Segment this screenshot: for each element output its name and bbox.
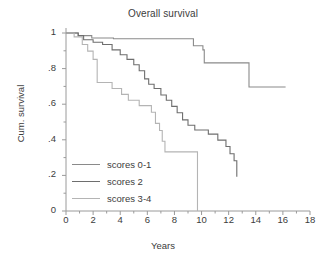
legend-item-1[interactable]: scores 0-1 <box>72 156 151 173</box>
x-tick-label: 10 <box>192 214 212 225</box>
y-tick-label: 0 <box>34 204 56 215</box>
y-tick-label: .8 <box>34 62 56 73</box>
legend-label: scores 3-4 <box>107 193 151 204</box>
legend-label: scores 0-1 <box>107 159 151 170</box>
chart-legend: scores 0-1scores 2scores 3-4 <box>72 156 151 207</box>
y-tick-label: 1 <box>34 26 56 37</box>
x-tick-label: 18 <box>300 214 320 225</box>
x-tick-label: 2 <box>83 214 103 225</box>
legend-line-swatch <box>72 164 100 165</box>
x-tick-label: 0 <box>56 214 76 225</box>
x-tick-label: 14 <box>246 214 266 225</box>
x-tick-label: 8 <box>164 214 184 225</box>
legend-label: scores 2 <box>107 176 143 187</box>
y-tick-label: .2 <box>34 168 56 179</box>
legend-line-swatch <box>72 198 100 199</box>
x-tick-label: 16 <box>273 214 293 225</box>
x-tick-label: 4 <box>110 214 130 225</box>
legend-item-2[interactable]: scores 2 <box>72 173 151 190</box>
survival-curve-1 <box>66 33 286 87</box>
survival-chart-figure: Overall survival Cum. survival Years 0.2… <box>0 0 326 266</box>
x-tick-label: 6 <box>137 214 157 225</box>
x-tick-label: 12 <box>219 214 239 225</box>
legend-line-swatch <box>72 181 100 182</box>
y-tick-label: .6 <box>34 97 56 108</box>
legend-item-3[interactable]: scores 3-4 <box>72 190 151 207</box>
y-tick-label: .4 <box>34 133 56 144</box>
